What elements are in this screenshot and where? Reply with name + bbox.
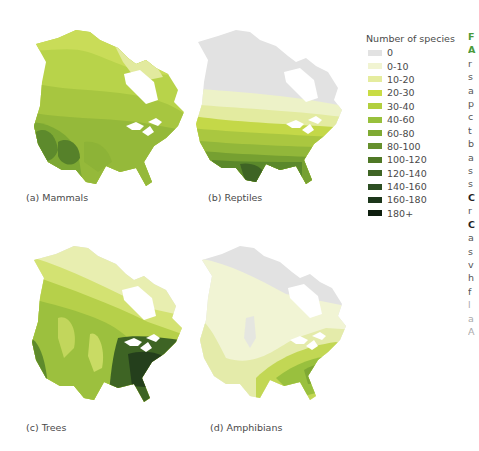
caption-fragment-line: F: [468, 30, 479, 43]
legend-item: 30-40: [366, 100, 455, 113]
caption-fragment-line: f: [468, 285, 479, 298]
legend-swatch: [368, 90, 382, 96]
legend-item: 80-100: [366, 140, 455, 153]
caption-fragment-line: v: [468, 258, 479, 271]
trees-map: [28, 238, 193, 408]
legend-item: 180+: [366, 207, 455, 220]
caption-fragment-line: s: [468, 177, 479, 190]
legend-item: 40-60: [366, 113, 455, 126]
legend-label: 0-10: [387, 61, 409, 72]
legend-swatch: [368, 143, 382, 149]
panel-label-mammals: (a) Mammals: [26, 192, 88, 203]
panel-label-amphibians: (d) Amphibians: [210, 422, 282, 433]
legend-label: 60-80: [387, 128, 415, 139]
caption-fragment-line: h: [468, 271, 479, 284]
legend-item: 20-30: [366, 86, 455, 99]
legend-item: 10-20: [366, 73, 455, 86]
legend-label: 100-120: [387, 154, 427, 165]
caption-fragment-line: a: [468, 231, 479, 244]
legend-swatch: [368, 210, 382, 216]
mammals-map: [28, 22, 193, 192]
legend-label: 160-180: [387, 194, 427, 205]
legend-swatch: [368, 184, 382, 190]
legend-swatch: [368, 117, 382, 123]
reptiles-map: [192, 22, 352, 192]
legend-label: 180+: [387, 208, 413, 219]
legend-swatch: [368, 157, 382, 163]
legend-swatch: [368, 50, 382, 56]
caption-fragment-line: a: [468, 84, 479, 97]
legend-swatch: [368, 76, 382, 82]
legend-label: 120-140: [387, 168, 427, 179]
legend-label: 20-30: [387, 87, 415, 98]
legend-label: 80-100: [387, 141, 421, 152]
legend-label: 140-160: [387, 181, 427, 192]
legend-item: 120-140: [366, 167, 455, 180]
map-panel-mammals: (a) Mammals: [28, 22, 193, 192]
caption-fragment-line: C: [468, 218, 479, 231]
legend-label: 10-20: [387, 74, 415, 85]
legend-item: 60-80: [366, 126, 455, 139]
map-panel-reptiles: (b) Reptiles: [192, 22, 352, 192]
amphibians-map: [196, 238, 356, 408]
caption-fragment: FArsapctbassCrCasvhflaA: [468, 30, 479, 338]
legend: Number of species 00-1010-2020-3030-4040…: [366, 33, 455, 220]
caption-fragment-line: A: [468, 43, 479, 56]
caption-fragment-line: s: [468, 245, 479, 258]
caption-fragment-line: r: [468, 204, 479, 217]
panel-label-trees: (c) Trees: [26, 422, 66, 433]
caption-fragment-line: A: [468, 325, 479, 338]
legend-swatch: [368, 130, 382, 136]
legend-label: 40-60: [387, 114, 415, 125]
map-panel-trees: (c) Trees: [28, 238, 193, 408]
caption-fragment-line: l: [468, 298, 479, 311]
caption-fragment-line: b: [468, 137, 479, 150]
legend-title: Number of species: [366, 33, 455, 44]
caption-fragment-line: C: [468, 191, 479, 204]
caption-fragment-line: a: [468, 151, 479, 164]
legend-swatch: [368, 103, 382, 109]
panel-label-reptiles: (b) Reptiles: [208, 192, 262, 203]
legend-item: 160-180: [366, 193, 455, 206]
caption-fragment-line: p: [468, 97, 479, 110]
caption-fragment-line: s: [468, 164, 479, 177]
legend-label: 30-40: [387, 101, 415, 112]
legend-items: 00-1010-2020-3030-4040-6060-8080-100100-…: [366, 46, 455, 220]
legend-swatch: [368, 63, 382, 69]
caption-fragment-line: a: [468, 312, 479, 325]
legend-item: 0: [366, 46, 455, 59]
legend-label: 0: [387, 47, 393, 58]
legend-item: 100-120: [366, 153, 455, 166]
legend-item: 140-160: [366, 180, 455, 193]
legend-item: 0-10: [366, 59, 455, 72]
caption-fragment-line: s: [468, 70, 479, 83]
caption-fragment-line: r: [468, 57, 479, 70]
legend-swatch: [368, 197, 382, 203]
caption-fragment-line: c: [468, 110, 479, 123]
legend-swatch: [368, 170, 382, 176]
caption-fragment-line: t: [468, 124, 479, 137]
map-panel-amphibians: (d) Amphibians: [196, 238, 356, 408]
